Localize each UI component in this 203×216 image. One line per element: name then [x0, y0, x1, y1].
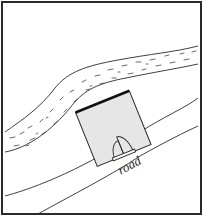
site-diagram: road — [0, 0, 203, 216]
